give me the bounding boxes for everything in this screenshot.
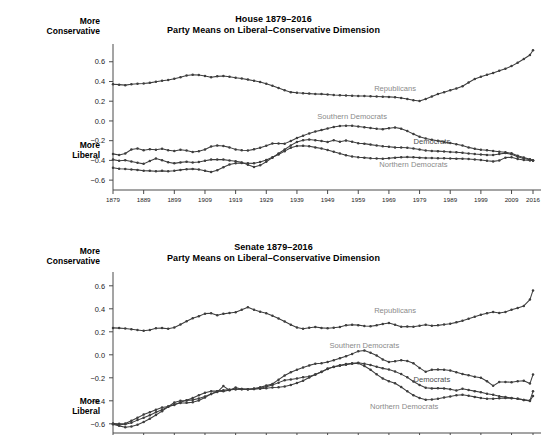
series-marker xyxy=(320,129,323,132)
series-marker xyxy=(210,390,213,393)
series-marker xyxy=(516,155,519,158)
series-marker xyxy=(283,379,286,382)
series-marker xyxy=(332,326,335,329)
series-marker xyxy=(198,150,201,153)
series-marker xyxy=(357,95,360,98)
series-marker xyxy=(480,397,483,400)
series-marker xyxy=(467,81,470,84)
series-marker xyxy=(179,169,182,172)
series-marker xyxy=(290,371,293,374)
series-marker xyxy=(394,156,397,159)
series-marker xyxy=(486,397,489,400)
series-marker xyxy=(326,93,329,96)
series-marker xyxy=(320,140,323,143)
series-marker xyxy=(161,410,164,413)
series-marker xyxy=(161,80,164,83)
series-marker xyxy=(198,397,201,400)
series-marker xyxy=(149,82,152,85)
series-marker xyxy=(529,159,532,162)
series-marker xyxy=(480,159,483,162)
series-marker xyxy=(363,325,366,328)
series-marker xyxy=(382,323,385,326)
series-marker xyxy=(431,398,434,401)
series-marker xyxy=(504,156,507,159)
series-marker xyxy=(302,145,305,148)
series-marker xyxy=(461,394,464,397)
series-marker xyxy=(351,141,354,144)
series-marker xyxy=(523,399,526,402)
series-marker xyxy=(363,365,366,368)
series-marker xyxy=(216,391,219,394)
series-marker xyxy=(388,157,391,160)
series-marker xyxy=(437,157,440,160)
series-northern-democrats xyxy=(112,145,535,174)
series-marker xyxy=(216,75,219,78)
series-marker xyxy=(265,387,268,390)
series-marker xyxy=(492,394,495,397)
series-marker xyxy=(345,139,348,142)
series-marker xyxy=(504,381,507,384)
series-marker xyxy=(431,325,434,328)
series-marker xyxy=(388,96,391,99)
series-marker xyxy=(498,153,501,156)
series-line xyxy=(113,350,533,423)
series-marker xyxy=(173,150,176,153)
series-marker xyxy=(424,386,427,389)
series-marker xyxy=(437,368,440,371)
series-marker xyxy=(185,74,188,77)
series-marker xyxy=(431,387,434,390)
series-marker xyxy=(265,312,268,315)
series-marker xyxy=(455,371,458,374)
series-marker xyxy=(369,127,372,130)
series-marker xyxy=(118,154,121,157)
series-marker xyxy=(529,54,532,57)
series-marker xyxy=(418,367,421,370)
series-marker xyxy=(532,49,535,52)
x-tick-label: 1969 xyxy=(382,196,396,203)
series-marker xyxy=(345,94,348,97)
series-marker xyxy=(424,371,427,374)
series-marker xyxy=(271,85,274,88)
series-marker xyxy=(179,400,182,403)
series-marker xyxy=(130,328,133,331)
series-marker xyxy=(112,153,115,156)
series-marker xyxy=(510,153,513,156)
series-marker xyxy=(173,326,176,329)
series-marker xyxy=(112,83,115,86)
series-marker xyxy=(461,85,464,88)
series-marker xyxy=(351,323,354,326)
series-label-northern-democrats: Northern Democrats xyxy=(370,402,439,411)
series-marker xyxy=(155,327,158,330)
series-marker xyxy=(253,166,256,169)
series-marker xyxy=(179,149,182,152)
series-marker xyxy=(204,160,207,163)
series-marker xyxy=(449,151,452,154)
series-marker xyxy=(320,327,323,330)
series-marker xyxy=(204,170,207,173)
series-marker xyxy=(516,61,519,64)
series-marker xyxy=(314,139,317,142)
series-marker xyxy=(424,323,427,326)
series-marker xyxy=(173,77,176,80)
series-marker xyxy=(529,298,532,301)
series-marker xyxy=(222,75,225,78)
series-marker xyxy=(412,362,415,365)
series-democrats xyxy=(112,138,535,168)
x-tick-label: 1899 xyxy=(167,196,181,203)
series-marker xyxy=(191,317,194,320)
series-marker xyxy=(363,363,366,366)
series-marker xyxy=(375,95,378,98)
series-marker xyxy=(443,323,446,326)
series-marker xyxy=(296,369,299,372)
series-marker xyxy=(155,409,158,412)
series-marker xyxy=(277,378,280,381)
house-plot-area: 0.60.40.20.0−0.2−0.4−0.61879188918991909… xyxy=(0,38,547,220)
series-marker xyxy=(136,82,139,85)
series-marker xyxy=(443,157,446,160)
series-marker xyxy=(424,98,427,101)
series-marker xyxy=(185,161,188,164)
series-marker xyxy=(326,367,329,370)
series-marker xyxy=(216,314,219,317)
x-tick-label: 1979 xyxy=(413,196,427,203)
series-marker xyxy=(136,162,139,165)
